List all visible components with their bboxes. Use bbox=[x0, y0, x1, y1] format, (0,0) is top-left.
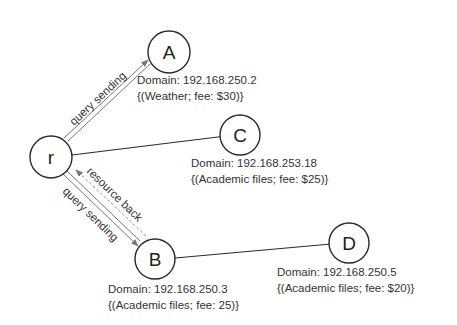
edge-b-d bbox=[175, 244, 331, 258]
node-a-resource: {(Weather; fee: $30)} bbox=[137, 90, 244, 102]
node-d[interactable]: D bbox=[329, 223, 369, 263]
node-d-domain: Domain: 192.168.250.5 bbox=[277, 266, 397, 278]
node-r-label: r bbox=[48, 147, 55, 168]
node-b-domain: Domain: 192.168.250.3 bbox=[108, 283, 228, 295]
node-b[interactable]: B bbox=[135, 239, 175, 279]
node-a-label: A bbox=[163, 42, 176, 63]
node-c-label: C bbox=[233, 125, 247, 146]
edge-label-r-a: query sending bbox=[67, 69, 128, 127]
node-r[interactable]: r bbox=[30, 136, 72, 178]
node-b-resource: {(Academic files; fee: 25)} bbox=[108, 299, 239, 311]
edge-r-c bbox=[72, 136, 226, 155]
node-c-domain: Domain: 192.168.253.18 bbox=[191, 157, 317, 169]
node-a[interactable]: A bbox=[148, 31, 190, 73]
node-c-resource: {(Academic files; fee: $25)} bbox=[191, 173, 329, 185]
node-d-label: D bbox=[342, 233, 356, 254]
node-b-label: B bbox=[149, 249, 162, 270]
node-d-resource: {(Academic files; fee: $20)} bbox=[277, 282, 415, 294]
network-diagram: query sending query sending resource bac… bbox=[0, 0, 457, 325]
node-c[interactable]: C bbox=[220, 115, 260, 155]
node-a-domain: Domain: 192.168.250.2 bbox=[137, 74, 257, 86]
